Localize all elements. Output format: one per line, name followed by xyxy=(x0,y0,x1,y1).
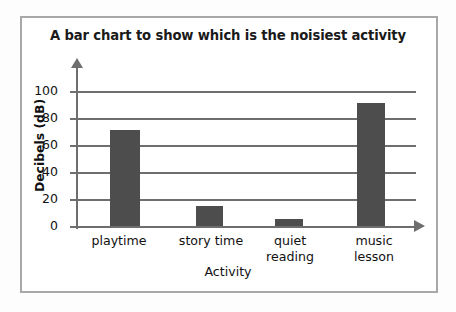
y-tick-80 xyxy=(70,118,78,120)
y-tick-label-0: 0 xyxy=(24,220,58,232)
y-tick-100 xyxy=(70,91,78,93)
gridline-100 xyxy=(78,91,416,93)
x-label-music-lesson: music lesson xyxy=(336,233,412,265)
y-tick-0 xyxy=(70,226,78,228)
plot-area xyxy=(78,60,426,230)
y-tick-40 xyxy=(70,172,78,174)
y-tick-60 xyxy=(70,145,78,147)
x-label-playtime: playtime xyxy=(80,233,158,249)
chart-title: A bar chart to show which is the noisies… xyxy=(0,28,456,43)
y-axis-title: Decibels (dB) xyxy=(32,86,47,206)
bar-quiet-reading[interactable] xyxy=(275,219,303,226)
x-axis-arrow-icon xyxy=(414,220,425,232)
x-label-quiet-reading: quiet reading xyxy=(252,233,328,265)
x-axis-title: Activity xyxy=(0,264,456,279)
y-tick-20 xyxy=(70,199,78,201)
bar-playtime[interactable] xyxy=(110,130,140,226)
x-label-story-time: story time xyxy=(170,233,252,249)
y-axis-arrow-icon xyxy=(71,58,83,68)
x-axis-line xyxy=(76,226,416,228)
chart-page: A bar chart to show which is the noisies… xyxy=(0,0,456,312)
bar-story-time[interactable] xyxy=(196,206,223,226)
bar-music-lesson[interactable] xyxy=(357,103,385,226)
